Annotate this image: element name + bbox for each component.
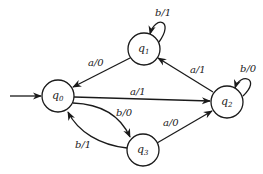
state-label-q0: q [52,89,59,102]
state-label-q1: q [138,42,145,55]
state-diagram: b/1 a/0 a/1 b/0 a/1 b/0 b/1 a/0 q0 q1 q2… [0,0,263,174]
state-sub-q3: 3 [144,149,149,157]
state-sub-q0: 0 [59,95,64,103]
edge-label-q1-q0: a/0 [88,57,104,68]
edge-label-q2-q1: a/1 [190,64,206,75]
state-q1: q1 [128,33,160,65]
state-sub-q2: 2 [227,101,233,109]
state-q2: q2 [211,86,243,118]
edge-label-q1-q1: b/1 [155,7,171,18]
state-label-q3: q [137,143,144,156]
state-sub-q1: 1 [145,48,149,56]
edge-label-q3-q0: b/1 [75,139,91,150]
state-q3: q3 [127,134,159,166]
state-label-q2: q [221,95,228,108]
edge-label-q0-q2: a/1 [130,86,146,97]
state-q0: q0 [42,80,74,112]
edge-label-q2-q2: b/0 [240,63,257,74]
edge-q0-q2 [74,97,210,101]
edge-label-q3-q2: a/0 [163,117,179,128]
edge-label-q0-q3: b/0 [116,107,133,118]
